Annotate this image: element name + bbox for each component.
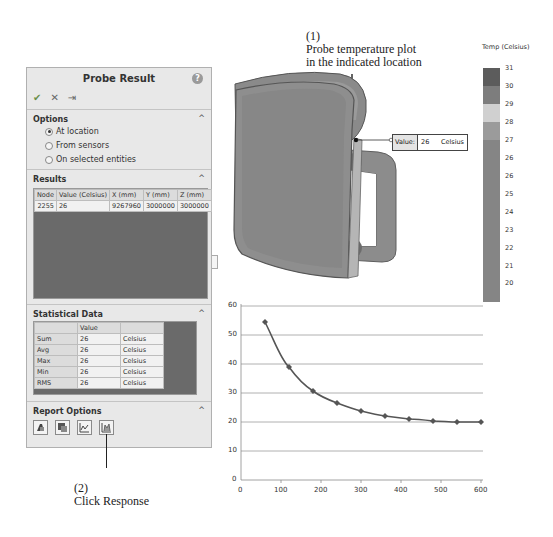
cell-value: 26 bbox=[56, 201, 109, 212]
stat-unit: Celsius bbox=[121, 378, 164, 389]
table-row[interactable]: Max 26 Celsius bbox=[35, 356, 164, 367]
probe-value-label: Value: 26 Celsius bbox=[392, 134, 468, 151]
legend-title: Temp (Celsius) bbox=[482, 43, 530, 51]
legend-swatch bbox=[483, 104, 500, 122]
collapse-stats-chevron-icon[interactable]: ^ bbox=[198, 309, 205, 318]
col-unit bbox=[121, 323, 164, 334]
panel-toolbar: ✔ ✕ ⇥ bbox=[33, 92, 76, 106]
x-tick-label: 0 bbox=[238, 486, 242, 494]
col-value: Value bbox=[78, 323, 121, 334]
radio-at-location[interactable]: At location bbox=[45, 127, 99, 136]
response-chart: 60 50 40 30 20 10 0 bbox=[225, 298, 495, 478]
ok-check-icon[interactable]: ✔ bbox=[33, 92, 41, 106]
legend-label: 30 bbox=[505, 82, 513, 90]
results-table: Node Value (Celsius) X (mm) Y (mm) Z (mm… bbox=[34, 189, 212, 212]
table-row[interactable]: Sum 26 Celsius bbox=[35, 334, 164, 345]
stat-unit: Celsius bbox=[121, 356, 164, 367]
radio-on-selected-entities[interactable]: On selected entities bbox=[45, 155, 136, 164]
radio-unselected-icon[interactable] bbox=[45, 156, 53, 164]
panel-collapse-handle[interactable] bbox=[212, 255, 218, 269]
stat-label: Avg bbox=[35, 345, 78, 356]
col-value[interactable]: Value (Celsius) bbox=[56, 190, 109, 201]
pin-icon[interactable]: ⇥ bbox=[68, 92, 76, 106]
stats-table: Value Sum 26 Celsius Avg 26 Celsius Max … bbox=[34, 322, 164, 389]
col-z[interactable]: Z (mm) bbox=[177, 190, 211, 201]
cell-y: 3000000 bbox=[143, 201, 177, 212]
col-node[interactable]: Node bbox=[35, 190, 57, 201]
x-tick-label: 300 bbox=[354, 486, 367, 494]
options-header[interactable]: Options bbox=[33, 115, 68, 124]
stat-label: Max bbox=[35, 356, 78, 367]
radio-from-sensors[interactable]: From sensors bbox=[45, 141, 109, 150]
collapse-report-chevron-icon[interactable]: ^ bbox=[198, 406, 205, 415]
probe-label-caption: Value: bbox=[393, 135, 418, 150]
x-tick-label: 100 bbox=[274, 486, 287, 494]
cell-node: 2255 bbox=[35, 201, 57, 212]
divider bbox=[27, 401, 211, 402]
legend-label: 26 bbox=[505, 154, 513, 162]
cell-z: 3000000 bbox=[177, 201, 211, 212]
report-options-header[interactable]: Report Options bbox=[33, 407, 101, 416]
annotation-1: (1) Probe temperature plot in the indica… bbox=[306, 30, 422, 69]
results-grid[interactable]: Node Value (Celsius) X (mm) Y (mm) Z (mm… bbox=[33, 188, 208, 299]
results-header[interactable]: Results bbox=[33, 175, 66, 184]
cell-x: 9267960 bbox=[110, 201, 144, 212]
help-icon[interactable]: ? bbox=[192, 73, 203, 84]
x-tick-label: 600 bbox=[474, 486, 487, 494]
statistical-data-header[interactable]: Statistical Data bbox=[33, 310, 103, 319]
probe-label-value: 26 bbox=[418, 135, 438, 150]
collapse-options-chevron-icon[interactable]: ^ bbox=[198, 114, 205, 123]
mug-3d-model[interactable] bbox=[230, 70, 470, 290]
stat-unit: Celsius bbox=[121, 334, 164, 345]
stat-value: 26 bbox=[78, 367, 121, 378]
divider bbox=[27, 304, 211, 305]
legend-label: 27 bbox=[505, 136, 513, 144]
legend-swatch bbox=[483, 68, 500, 86]
cancel-x-icon[interactable]: ✕ bbox=[50, 92, 58, 106]
table-row[interactable]: Avg 26 Celsius bbox=[35, 345, 164, 356]
table-row[interactable]: 2255 26 9267960 3000000 3000000 bbox=[35, 201, 212, 212]
col-y[interactable]: Y (mm) bbox=[143, 190, 177, 201]
x-tick-label: 500 bbox=[434, 486, 447, 494]
plot-button[interactable] bbox=[77, 420, 92, 435]
table-row[interactable]: Min 26 Celsius bbox=[35, 367, 164, 378]
probe-label-unit: Celsius bbox=[438, 135, 467, 150]
col-x[interactable]: X (mm) bbox=[110, 190, 144, 201]
legend-label: 20 bbox=[505, 279, 513, 287]
report-buttons bbox=[33, 420, 114, 435]
stats-grid[interactable]: Value Sum 26 Celsius Avg 26 Celsius Max … bbox=[33, 321, 197, 395]
radio-label: On selected entities bbox=[56, 155, 136, 164]
legend-label: 31 bbox=[505, 64, 513, 72]
radio-label: At location bbox=[56, 127, 99, 136]
legend-label: 21 bbox=[505, 262, 513, 270]
stat-label: Sum bbox=[35, 334, 78, 345]
x-tick-label: 200 bbox=[314, 486, 327, 494]
legend-label: 23 bbox=[505, 226, 513, 234]
probe-result-panel: Probe Result ? ✔ ✕ ⇥ Options ^ At locati… bbox=[26, 67, 212, 448]
table-row[interactable]: RMS 26 Celsius bbox=[35, 378, 164, 389]
chart-plot-area bbox=[225, 298, 495, 488]
collapse-results-chevron-icon[interactable]: ^ bbox=[198, 174, 205, 183]
legend-label: 26 bbox=[505, 172, 513, 180]
save-as-sensor-button[interactable] bbox=[33, 420, 48, 435]
stat-value: 26 bbox=[78, 356, 121, 367]
response-icon bbox=[101, 422, 112, 433]
sensor-icon bbox=[35, 422, 46, 433]
divider bbox=[27, 169, 211, 170]
annotation-text: Click Response bbox=[74, 495, 149, 508]
callout-line bbox=[106, 434, 107, 468]
radio-selected-icon[interactable] bbox=[45, 128, 53, 136]
radio-unselected-icon[interactable] bbox=[45, 142, 53, 150]
stat-unit: Celsius bbox=[121, 345, 164, 356]
save-data-button[interactable] bbox=[55, 420, 70, 435]
response-button[interactable] bbox=[99, 420, 114, 435]
stats-header-row: Value bbox=[35, 323, 164, 334]
legend-swatch bbox=[483, 86, 500, 104]
color-legend-bar bbox=[483, 68, 500, 302]
table-header-row: Node Value (Celsius) X (mm) Y (mm) Z (mm… bbox=[35, 190, 212, 201]
legend-label: 22 bbox=[505, 244, 513, 252]
stat-value: 26 bbox=[78, 378, 121, 389]
legend-label: 25 bbox=[505, 190, 513, 198]
annotation-2: (2) Click Response bbox=[74, 482, 149, 508]
plot-icon bbox=[79, 422, 90, 433]
